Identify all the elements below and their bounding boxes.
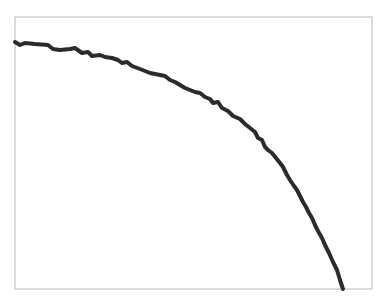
- data-line: [15, 42, 343, 289]
- plot-frame: [15, 17, 372, 289]
- chart: [0, 0, 385, 306]
